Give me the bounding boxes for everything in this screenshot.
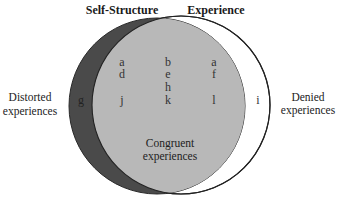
denied-label-line1: Denied	[291, 91, 324, 103]
letter-j: j	[119, 93, 123, 107]
letter-g: g	[78, 93, 84, 107]
venn-diagram: Self-Structure Experience Distorted expe…	[0, 0, 337, 199]
letter-d: d	[119, 67, 125, 81]
letter-h: h	[165, 80, 171, 94]
distorted-label-line1: Distorted	[9, 91, 52, 103]
self-structure-label: Self-Structure	[86, 3, 159, 17]
letter-e: e	[165, 67, 170, 81]
experience-label: Experience	[187, 3, 245, 17]
congruent-label-line1: Congruent	[146, 137, 195, 150]
denied-label-line2: experiences	[281, 104, 336, 117]
congruent-label-line2: experiences	[143, 150, 198, 163]
distorted-label-line2: experiences	[3, 105, 58, 118]
letter-k: k	[165, 93, 171, 107]
letter-f: f	[212, 67, 216, 81]
